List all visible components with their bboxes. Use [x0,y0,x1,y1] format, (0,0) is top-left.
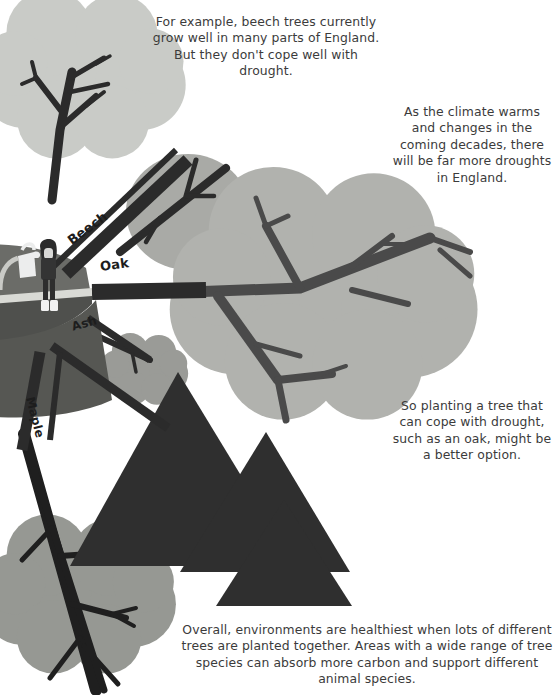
figure-boot-right [50,300,58,311]
illustration-canvas: For example, beech trees currently grow … [0,0,558,695]
figure-leg-right [50,279,55,302]
figure-leg-left [43,279,48,302]
oak-tree [170,167,478,420]
caption-beech: For example, beech trees currently grow … [150,14,382,80]
figure-face [44,248,53,259]
caption-overall: Overall, environments are healthiest whe… [178,622,556,688]
caption-oak: So planting a tree that can cope with dr… [392,398,552,464]
figure-boot-left [41,300,49,311]
caption-climate: As the climate warms and changes in the … [392,104,552,186]
figure-torso [41,258,56,280]
